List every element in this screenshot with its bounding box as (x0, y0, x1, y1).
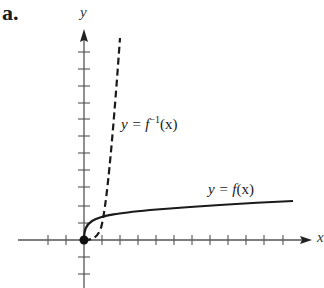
graph-canvas (0, 0, 324, 288)
curve-f-inverse-label: y = f−1(x) (121, 114, 178, 133)
x-axis-label: x (317, 229, 324, 246)
origin-point (80, 236, 89, 245)
label-prefix: y = (121, 116, 145, 132)
label-suffix: (x) (160, 116, 178, 132)
curve-f-label: y = f(x) (208, 181, 254, 198)
label-prefix: y = (208, 181, 232, 197)
curve-f (84, 201, 293, 240)
y-axis-label: y (80, 4, 87, 21)
label-superscript: −1 (149, 114, 160, 125)
curve-f-inverse (84, 38, 120, 240)
label-suffix: (x) (236, 181, 254, 197)
